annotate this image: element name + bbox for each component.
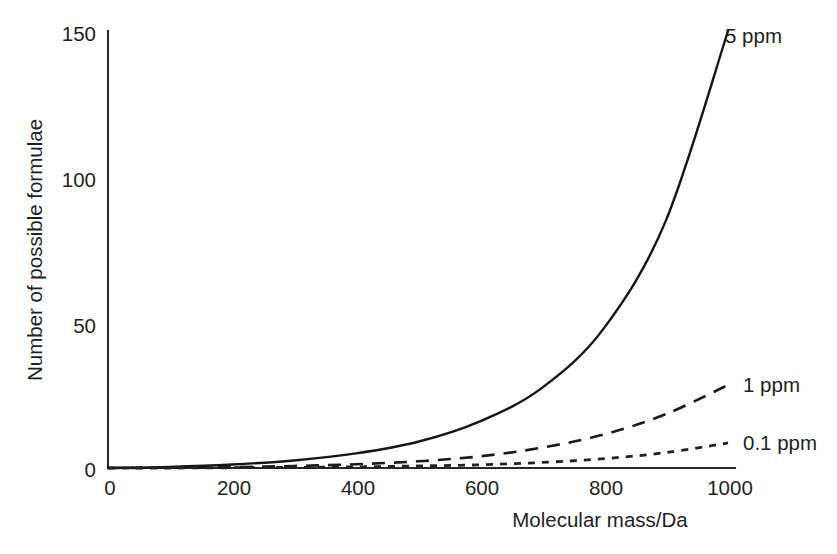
series-label-5ppm: 5 ppm (725, 24, 782, 47)
y-tick-label-50: 50 (73, 314, 96, 337)
x-axis-title: Molecular mass/Da (512, 508, 688, 531)
x-tick-label-600: 600 (465, 476, 499, 499)
x-tick-label-800: 800 (589, 476, 623, 499)
chart-canvas: 150 100 50 0 0 200 400 600 800 1000 Mole… (0, 0, 837, 554)
y-tick-label-150: 150 (62, 22, 96, 45)
series-label-1ppm: 1 ppm (743, 373, 800, 396)
x-tick-label-0: 0 (104, 476, 115, 499)
y-tick-label-100: 100 (62, 168, 96, 191)
y-tick-label-0: 0 (85, 458, 96, 481)
chart-figure: 150 100 50 0 0 200 400 600 800 1000 Mole… (0, 0, 837, 554)
series-label-0-1ppm: 0.1 ppm (743, 431, 817, 454)
x-tick-label-1000: 1000 (707, 476, 753, 499)
x-tick-label-400: 400 (341, 476, 375, 499)
x-tick-label-200: 200 (217, 476, 251, 499)
y-axis-title: Number of possible formulae (23, 119, 46, 381)
